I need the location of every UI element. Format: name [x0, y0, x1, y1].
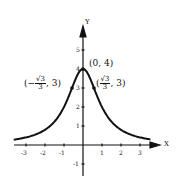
left-point-label: (−√33, 3) — [24, 76, 61, 91]
x-tick-label: -2 — [40, 150, 46, 156]
point-marker — [81, 67, 85, 71]
y-tick-label: 4 — [76, 66, 80, 72]
x-axis-label: X — [164, 141, 169, 148]
fraction: √33 — [35, 76, 46, 91]
y-tick-label: 5 — [76, 47, 80, 53]
peak-label: (0, 4) — [89, 59, 113, 68]
y-tick-label: 2 — [76, 104, 80, 110]
y-tick-label: 3 — [76, 85, 80, 91]
x-tick-label: 1 — [100, 150, 104, 156]
y-tick-label: -1 — [73, 161, 79, 167]
x-tick-label: 3 — [138, 150, 142, 156]
x-tick-label: 2 — [119, 150, 123, 156]
right-point-label: (√33, 3) — [96, 76, 125, 91]
y-axis-label: Y — [85, 19, 90, 26]
x-tick-label: -3 — [21, 150, 27, 156]
y-arrow-icon — [80, 26, 86, 37]
function-graph: Y X (0, 4) (−√33, 3) (√33, 3) -3-2-1123 … — [0, 0, 176, 188]
y-tick-label: 1 — [76, 123, 80, 129]
x-arrow-icon — [150, 142, 160, 148]
plot-area — [0, 0, 176, 188]
fraction: √33 — [100, 76, 111, 91]
point-marker — [70, 86, 74, 90]
x-tick-label: -1 — [59, 150, 65, 156]
